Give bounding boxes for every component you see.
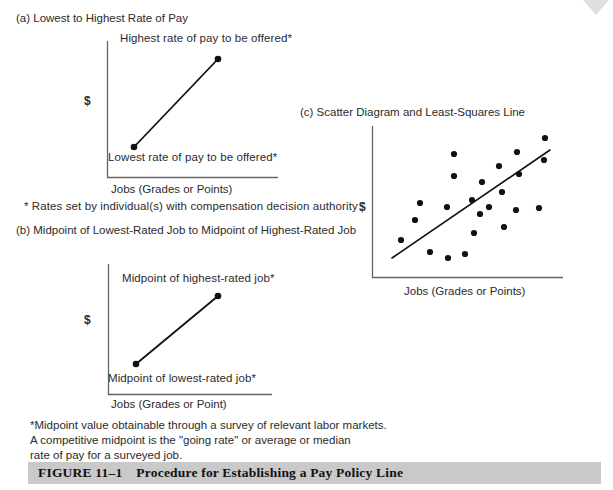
panel-a-low-endpoint xyxy=(131,144,138,151)
panel-a-plot xyxy=(100,38,290,183)
panel-a-footnote: * Rates set by individual(s) with compen… xyxy=(24,199,358,213)
figure-caption: FIGURE 11–1Procedure for Establishing a … xyxy=(28,465,403,481)
panel-a-high-endpoint xyxy=(215,56,222,63)
panel-c-least-squares-line xyxy=(392,150,550,258)
scan-artifact-corner xyxy=(583,0,609,15)
panel-b-title: (b) Midpoint of Lowest-Rated Job to Midp… xyxy=(16,224,356,236)
panel-b-y-axis-label: $ xyxy=(84,313,91,327)
panel-a-x-axis-label: Jobs (Grades or Points) xyxy=(111,183,232,195)
panel-c-scatter-points xyxy=(398,135,548,261)
panel-a-y-axis-label: $ xyxy=(84,94,91,108)
figure-container: (a) Lowest to Highest Rate of Pay Highes… xyxy=(0,0,613,490)
panel-b-plot xyxy=(100,262,290,402)
figure-title: Procedure for Establishing a Pay Policy … xyxy=(136,465,403,480)
figure-footnote: *Midpoint value obtainable through a sur… xyxy=(30,418,500,463)
panel-c-plot xyxy=(368,124,583,284)
panel-a-axes xyxy=(108,41,279,178)
panel-a-title: (a) Lowest to Highest Rate of Pay xyxy=(16,12,188,24)
panel-b-axes xyxy=(109,264,273,395)
panel-b-x-axis-label: Jobs (Grades or Point) xyxy=(111,398,227,410)
panel-c-y-axis-label: $ xyxy=(359,200,366,214)
figure-caption-bar: FIGURE 11–1Procedure for Establishing a … xyxy=(28,462,601,484)
panel-a-pay-line xyxy=(134,59,218,147)
panel-b-low-endpoint xyxy=(133,361,140,368)
panel-c-title: (c) Scatter Diagram and Least-Squares Li… xyxy=(300,106,525,118)
panel-c-x-axis-label: Jobs (Grades or Points) xyxy=(404,285,525,297)
panel-b-midpoint-line xyxy=(136,296,218,364)
figure-number: FIGURE 11–1 xyxy=(38,465,122,480)
panel-b-high-endpoint xyxy=(215,293,222,300)
